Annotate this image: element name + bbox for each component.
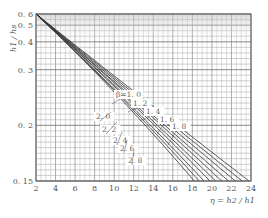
y-tick-label: 0. 5 [18, 21, 33, 30]
x-axis-ticks: 24681012141618202224 [33, 184, 256, 193]
x-tick-label: 12 [129, 184, 139, 193]
x-tick-label: 16 [168, 184, 178, 193]
x-tick-label: 6 [73, 184, 78, 193]
curve-label: 2. 8 [128, 156, 143, 165]
y-tick-label: 0. 6 [18, 10, 33, 19]
curve-label: 1. 8 [172, 122, 187, 131]
y-tick-label: 0. 2 [18, 121, 33, 130]
y-tick-label: 0. 15 [13, 177, 33, 186]
x-tick-label: 2 [33, 184, 38, 193]
y-axis-label: h1 / hs [9, 25, 18, 52]
y-tick-label: 0. 3 [18, 66, 33, 75]
x-tick-label: 14 [148, 184, 158, 193]
x-tick-label: 18 [187, 184, 197, 193]
chart: 24681012141618202224 0. 60. 50. 40. 30. … [0, 0, 268, 218]
curve-labels: β=1. 01. 21. 41. 61. 82. 02. 22. 42. 62.… [94, 90, 191, 165]
x-tick-label: 4 [53, 184, 58, 193]
curve-label: 2. 6 [120, 144, 135, 153]
y-tick-label: 0. 4 [18, 38, 33, 47]
x-tick-label: 24 [246, 184, 256, 193]
curve-label: 1. 4 [146, 107, 161, 116]
curve-label: 2. 2 [102, 125, 117, 134]
x-tick-label: 20 [207, 184, 217, 193]
x-axis-label: η = h2 / h1 [210, 196, 255, 205]
curve-label: β=1. 0 [116, 90, 141, 99]
curve-label: 2. 0 [96, 112, 111, 121]
x-tick-label: 8 [92, 184, 97, 193]
x-tick-label: 10 [109, 184, 119, 193]
x-tick-label: 22 [226, 184, 236, 193]
